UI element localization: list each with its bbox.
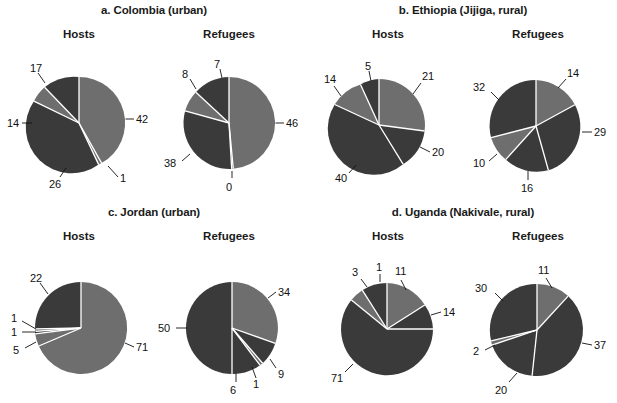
label-a-hosts-26: 26	[49, 178, 61, 190]
label-c-hosts-22: 22	[30, 272, 42, 284]
label-c-ref-50: 50	[158, 322, 170, 334]
label-c-hosts-71: 71	[136, 341, 148, 353]
panel-d-hosts-pie: 11 14 71 3 1	[331, 261, 455, 384]
label-d-ref-37: 37	[594, 339, 606, 351]
label-a-ref-7: 7	[214, 58, 220, 70]
label-b-ref-32: 32	[473, 81, 485, 93]
label-a-hosts-17: 17	[30, 62, 42, 74]
panel-a-refugees-pie: 46 0 38 8 7	[164, 58, 298, 193]
label-c-ref-34: 34	[278, 286, 290, 298]
slice-c-ref-50	[186, 282, 232, 374]
label-b-ref-16: 16	[521, 182, 533, 194]
label-c-hosts-1a: 1	[11, 326, 17, 338]
label-b-ref-29: 29	[594, 126, 606, 138]
label-c-ref-9: 9	[278, 368, 284, 380]
label-d-ref-11: 11	[538, 264, 549, 276]
label-a-ref-8: 8	[182, 68, 188, 80]
label-b-hosts-40: 40	[335, 172, 347, 184]
label-b-hosts-21: 21	[422, 70, 434, 82]
label-c-hosts-5: 5	[13, 344, 19, 356]
panel-d-refugees-pie: 11 37 20 2 30	[473, 264, 606, 396]
label-b-ref-14: 14	[567, 67, 579, 79]
label-a-hosts-14: 14	[7, 117, 19, 129]
panel-b-refugees-pie: 14 29 16 10 32	[473, 67, 606, 194]
slice-a-ref-46	[229, 77, 275, 169]
panel-a-colombia: a. Colombia (urban) Hosts Refugees	[0, 0, 308, 201]
pie-chart-figure: a. Colombia (urban) Hosts Refugees	[0, 0, 617, 403]
label-c-ref-6: 6	[230, 384, 236, 396]
label-d-hosts-11: 11	[395, 265, 406, 277]
panel-d-pies: 11 14 71 3 1	[309, 202, 617, 403]
label-c-hosts-1b: 1	[11, 312, 17, 324]
label-d-hosts-71: 71	[331, 372, 343, 384]
label-b-hosts-14: 14	[324, 73, 336, 85]
label-a-ref-38: 38	[164, 157, 176, 169]
label-d-hosts-1: 1	[376, 261, 382, 273]
label-a-ref-46: 46	[286, 117, 298, 129]
label-d-ref-20: 20	[495, 384, 507, 396]
label-b-hosts-5: 5	[365, 60, 371, 72]
label-b-ref-10: 10	[473, 157, 485, 169]
panel-c-refugees-pie: 34 9 1 6 50	[158, 282, 290, 396]
panel-b-ethiopia: b. Ethiopia (Jijiga, rural) Hosts Refuge…	[309, 0, 617, 201]
panel-a-pies: 42 1 26 14 17	[0, 0, 308, 201]
label-a-hosts-1: 1	[120, 172, 126, 184]
label-c-ref-1: 1	[253, 378, 259, 390]
label-d-ref-2: 2	[473, 345, 479, 357]
label-a-hosts-42: 42	[136, 113, 148, 125]
panel-c-pies: 71 5 1 1 22	[0, 202, 308, 403]
panel-b-pies: 21 20 40 14 5	[309, 0, 617, 201]
label-d-hosts-14: 14	[443, 306, 455, 318]
label-a-ref-0: 0	[226, 181, 232, 193]
label-d-ref-30: 30	[475, 282, 487, 294]
panel-b-hosts-pie: 21 20 40 14 5	[324, 60, 444, 184]
panel-d-uganda: d. Uganda (Nakivale, rural) Hosts Refuge…	[309, 202, 617, 403]
label-b-hosts-20: 20	[432, 146, 444, 158]
panel-c-jordan: c. Jordan (urban) Hosts Refugees	[0, 202, 308, 403]
slice-c-hosts-22	[35, 282, 81, 329]
label-d-hosts-3: 3	[352, 266, 358, 278]
panel-c-hosts-pie: 71 5 1 1 22	[11, 272, 148, 374]
panel-a-hosts-pie: 42 1 26 14 17	[7, 62, 148, 190]
